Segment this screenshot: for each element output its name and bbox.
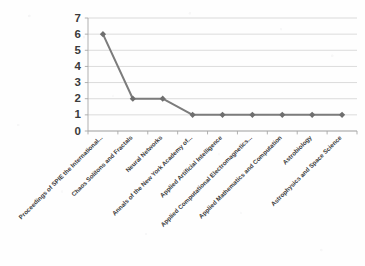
y-axis-tick-label: 6 — [75, 28, 81, 40]
y-axis-tick-label: 4 — [75, 60, 82, 72]
series-line — [103, 34, 342, 115]
data-point-markers — [100, 31, 345, 118]
data-point-marker — [339, 112, 345, 118]
data-point-marker — [249, 112, 255, 118]
data-point-marker — [100, 31, 106, 37]
y-axis-tick-label: 7 — [75, 12, 81, 24]
data-point-marker — [219, 112, 225, 118]
y-axis-tick-label: 3 — [75, 76, 81, 88]
x-axis-tick-label: Chaos Solitons and Fractals — [70, 133, 134, 197]
y-axis-tick-labels: 01234567 — [75, 12, 82, 137]
line-chart: 01234567 Proceedings of SPIE the Interna… — [0, 0, 365, 266]
x-axis-tick-labels: Proceedings of SPIE the International...… — [17, 133, 343, 228]
y-axis-ticks — [85, 18, 88, 131]
data-point-marker — [279, 112, 285, 118]
y-axis-tick-label: 2 — [75, 92, 81, 104]
y-axis-tick-label: 0 — [75, 125, 81, 137]
x-axis-tick-label: Applied Artificial Intelligence — [158, 133, 223, 198]
chart-canvas: 01234567 Proceedings of SPIE the Interna… — [0, 0, 365, 266]
data-point-marker — [130, 96, 136, 102]
x-axis-tick-label: Astrobiology — [281, 133, 313, 165]
data-point-marker — [309, 112, 315, 118]
y-axis-tick-label: 1 — [75, 108, 82, 120]
data-series — [100, 31, 345, 118]
y-axis-tick-label: 5 — [75, 44, 82, 56]
